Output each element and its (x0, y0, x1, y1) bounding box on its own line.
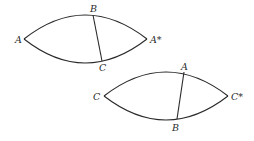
lunes-diagram: A A* B C C C* A B (0, 0, 254, 141)
label-a-star: A* (149, 34, 162, 45)
lune-bottom-chord-ab (177, 72, 184, 119)
lune-bottom-lower-arc (104, 96, 228, 120)
label-b-top: B (89, 3, 97, 14)
label-c-bottom: C (99, 62, 107, 73)
label-c-star: C* (231, 91, 243, 102)
label-a-left: A (14, 34, 22, 45)
label-a-top: A (180, 61, 188, 72)
label-b-bottom: B (171, 122, 179, 133)
lune-top: A A* B C (14, 3, 162, 73)
lune-top-upper-arc (24, 15, 147, 39)
lune-top-chord-bc (93, 15, 102, 61)
lune-bottom: C C* A B (93, 61, 243, 133)
label-c-left: C (93, 91, 101, 102)
lune-bottom-upper-arc (104, 72, 228, 96)
lune-top-lower-arc (24, 39, 147, 63)
